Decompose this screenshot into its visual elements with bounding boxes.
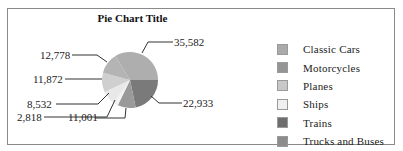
data-label-trains: 22,933 bbox=[183, 97, 214, 109]
legend-item-classic-cars: Classic Cars bbox=[277, 40, 384, 58]
legend-swatch bbox=[277, 44, 288, 55]
legend-item-trains: Trains bbox=[277, 114, 384, 132]
legend-swatch bbox=[277, 117, 288, 128]
data-label-classic-cars: 35,582 bbox=[174, 36, 204, 48]
legend-label: Trucks and Buses bbox=[303, 135, 384, 147]
data-label-ships: 8,532 bbox=[27, 98, 52, 110]
legend-swatch bbox=[277, 80, 288, 91]
legend-label: Planes bbox=[303, 80, 333, 92]
chart-legend: Classic Cars Motorcycles Planes Ships Tr… bbox=[277, 40, 384, 150]
legend-swatch bbox=[277, 62, 288, 73]
data-label-trucks: 11,001 bbox=[68, 111, 98, 123]
legend-label: Classic Cars bbox=[303, 43, 360, 55]
legend-item-planes: Planes bbox=[277, 77, 384, 95]
legend-item-ships: Ships bbox=[277, 95, 384, 113]
legend-item-motorcycles: Motorcycles bbox=[277, 58, 384, 76]
legend-label: Trains bbox=[303, 117, 332, 129]
legend-label: Motorcycles bbox=[303, 62, 360, 74]
legend-label: Ships bbox=[303, 98, 328, 110]
legend-item-trucks-and-buses: Trucks and Buses bbox=[277, 132, 384, 150]
legend-swatch bbox=[277, 136, 288, 147]
legend-swatch bbox=[277, 99, 288, 110]
data-label-motorcycles: 12,778 bbox=[40, 49, 71, 61]
pie-slices bbox=[102, 52, 158, 108]
data-label-planes: 11,872 bbox=[33, 73, 63, 85]
data-label-small-slice: 2,818 bbox=[17, 111, 42, 123]
